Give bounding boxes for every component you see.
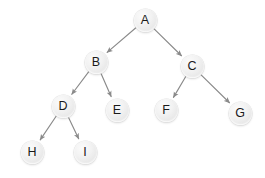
tree-edge-c-g — [201, 74, 230, 102]
tree-edge-d-h — [40, 116, 56, 140]
tree-node-label: G — [235, 106, 245, 119]
tree-node-h[interactable]: H — [21, 141, 44, 164]
tree-edge-c-f — [173, 76, 185, 97]
tree-node-a[interactable]: A — [134, 9, 157, 32]
tree-node-label: F — [162, 103, 170, 116]
tree-node-label: C — [187, 59, 196, 71]
tree-edge-a-b — [107, 28, 136, 53]
binary-tree-diagram: ABCDEFGHI — [0, 0, 265, 178]
tree-node-label: A — [141, 13, 149, 26]
tree-edge-b-d — [72, 72, 89, 95]
tree-node-c[interactable]: C — [181, 55, 204, 78]
tree-edge-b-e — [101, 73, 111, 97]
tree-node-label: E — [113, 103, 121, 116]
tree-edge-d-i — [68, 117, 78, 139]
tree-node-e[interactable]: E — [106, 99, 129, 122]
tree-node-i[interactable]: I — [74, 141, 97, 164]
tree-node-label: D — [58, 99, 67, 112]
tree-node-label: B — [92, 55, 100, 67]
tree-node-g[interactable]: G — [229, 102, 252, 125]
tree-node-label: I — [83, 145, 86, 158]
tree-node-d[interactable]: D — [52, 95, 75, 118]
tree-node-b[interactable]: B — [85, 51, 108, 74]
tree-node-f[interactable]: F — [155, 99, 178, 122]
tree-node-label: H — [27, 145, 36, 158]
tree-edges — [40, 28, 229, 140]
tree-edge-a-c — [154, 28, 182, 55]
